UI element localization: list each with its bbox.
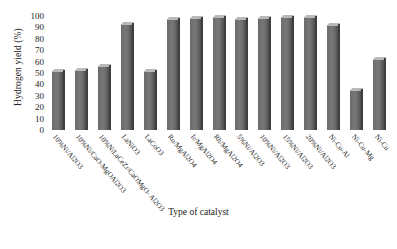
y-tick-label: 60	[35, 57, 44, 66]
x-axis-title: Type of catalyst	[0, 207, 397, 217]
bar	[52, 71, 63, 130]
bar	[350, 90, 361, 130]
bar	[121, 24, 132, 130]
category-label-slot: LaNiO3	[115, 131, 138, 211]
y-tick-label: 50	[35, 69, 44, 78]
category-label-slot: LaCoO3	[138, 131, 161, 211]
y-tick-label: 80	[35, 34, 44, 43]
x-tick-label: Ni-Cu	[372, 133, 390, 152]
y-tick-label: 10	[35, 114, 44, 123]
bar-slot	[115, 16, 138, 130]
bar-slot	[92, 16, 115, 130]
bar	[281, 17, 292, 130]
y-tick-label: 30	[35, 91, 44, 100]
y-tick-label: 100	[31, 12, 45, 21]
y-tick-label: 0	[40, 126, 45, 135]
x-axis-category-labels: 10%Ni/Al2O310%Ni/CaO-MgOAl2O310%NiLaCeZr…	[46, 131, 390, 211]
y-tick-label: 90	[35, 23, 44, 32]
plot-area	[46, 16, 390, 130]
category-label-slot: Ni-Cu	[367, 131, 390, 211]
category-label-slot: Ni-Cu-Mg	[344, 131, 367, 211]
bar-slot	[161, 16, 184, 130]
bar	[327, 25, 338, 130]
category-label-slot: 20%Ni/Al2O3	[298, 131, 321, 211]
category-label-slot: Ir/MgAl2O4	[184, 131, 207, 211]
bar-slot	[367, 16, 390, 130]
bar	[258, 18, 269, 130]
bar-slot	[321, 16, 344, 130]
bar	[190, 18, 201, 130]
bar	[98, 66, 109, 130]
category-label-slot: Rh/MgAl2O4	[207, 131, 230, 211]
category-label-slot: 10%Ni/CaO-MgOAl2O3	[69, 131, 92, 211]
bar-slot	[252, 16, 275, 130]
bar-slot	[344, 16, 367, 130]
category-label-slot: 15%Ni/Al2O3	[275, 131, 298, 211]
bar	[235, 19, 246, 130]
bar-slot	[230, 16, 253, 130]
bar-slot	[184, 16, 207, 130]
y-axis-ticks: 1009080706050403020100	[22, 16, 44, 130]
y-tick-label: 70	[35, 46, 44, 55]
bar	[167, 19, 178, 130]
category-label-slot: Ni-Cu-Al	[321, 131, 344, 211]
bar-slot	[207, 16, 230, 130]
category-label-slot: Ru/MgAl2O4	[161, 131, 184, 211]
y-tick-label: 40	[35, 80, 44, 89]
bar-slot	[46, 16, 69, 130]
bar	[75, 70, 86, 130]
bar-slot	[275, 16, 298, 130]
bar-slot	[69, 16, 92, 130]
bar	[144, 71, 155, 130]
bar	[304, 17, 315, 130]
hydrogen-yield-bar-chart: Hydrogen yield (%) 100908070605040302010…	[0, 0, 397, 249]
category-label-slot: 10%NiLaCeZr/CaOMgO- Al2O3	[92, 131, 115, 211]
bar-slot	[138, 16, 161, 130]
bar	[213, 17, 224, 130]
bar-series	[46, 16, 390, 130]
bar	[373, 59, 384, 130]
y-tick-label: 20	[35, 103, 44, 112]
category-label-slot: 10%Ni/Al2O3	[46, 131, 69, 211]
category-label-slot: 10%Ni/Al2O3	[252, 131, 275, 211]
category-label-slot: 5%Ni/Al2O3	[230, 131, 253, 211]
bar-slot	[298, 16, 321, 130]
